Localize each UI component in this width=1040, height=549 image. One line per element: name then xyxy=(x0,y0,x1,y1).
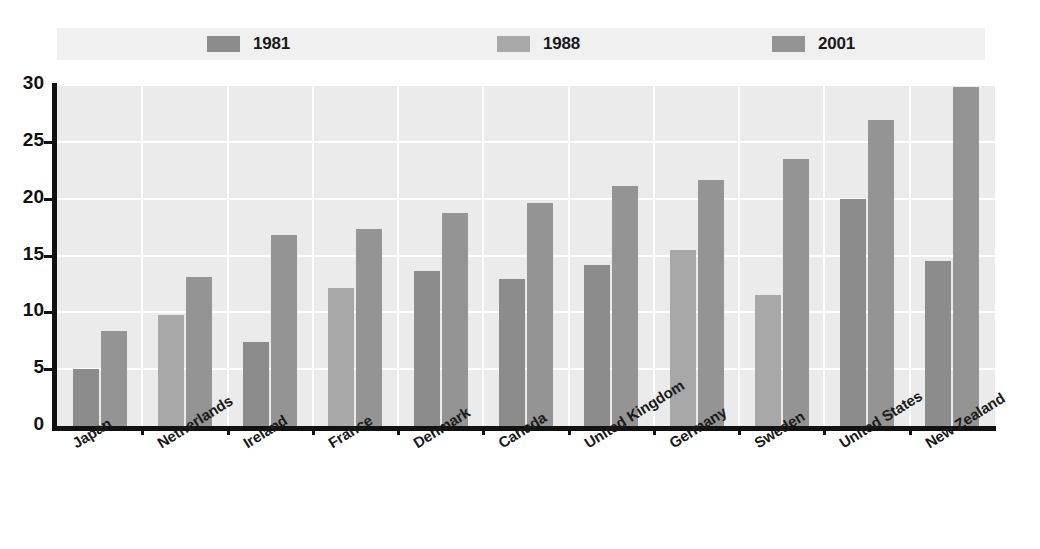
x-axis-tick xyxy=(141,426,144,435)
gridline-vertical xyxy=(738,85,740,426)
x-axis-tick xyxy=(823,426,826,435)
bar-new-zealand-2001 xyxy=(953,87,979,426)
y-axis-tick-label: 5 xyxy=(6,357,44,376)
bar-france-2001 xyxy=(356,229,382,426)
bar-france-1988 xyxy=(328,288,354,426)
gridline-horizontal xyxy=(57,84,995,86)
bar-new-zealand-1981 xyxy=(925,261,951,426)
legend-entry-1988[interactable]: 1988 xyxy=(497,28,580,60)
gridline-horizontal xyxy=(57,141,995,143)
bar-sweden-2001 xyxy=(783,159,809,426)
bar-united-kingdom-2001 xyxy=(612,186,638,426)
gridline-vertical xyxy=(568,85,570,426)
bar-germany-1988 xyxy=(670,250,696,426)
gridline-vertical xyxy=(482,85,484,426)
y-axis-tick-label: 0 xyxy=(6,414,44,433)
bar-netherlands-1988 xyxy=(158,315,184,426)
bar-ireland-2001 xyxy=(271,235,297,426)
legend-entry-2001[interactable]: 2001 xyxy=(772,28,855,60)
legend-entry-1981[interactable]: 1981 xyxy=(207,28,290,60)
bar-united-states-1981 xyxy=(840,199,866,426)
x-axis-tick xyxy=(568,426,571,435)
x-axis-tick xyxy=(482,426,485,435)
chart-legend: 1981 1988 2001 xyxy=(57,28,985,60)
gridline-vertical xyxy=(653,85,655,426)
legend-swatch-1981 xyxy=(207,36,240,52)
bar-united-kingdom-1981 xyxy=(584,265,610,426)
gridline-vertical xyxy=(823,85,825,426)
bar-denmark-1981 xyxy=(414,271,440,426)
legend-label-1988: 1988 xyxy=(543,34,580,54)
x-axis-tick xyxy=(312,426,315,435)
legend-swatch-2001 xyxy=(772,36,805,52)
y-axis-tick-label: 10 xyxy=(6,300,44,319)
gridline-vertical xyxy=(312,85,314,426)
bar-japan-1981 xyxy=(73,369,99,426)
y-axis-tick-label: 15 xyxy=(6,244,44,263)
gridline-vertical xyxy=(909,85,911,426)
bar-united-states-2001 xyxy=(868,120,894,426)
x-axis-tick xyxy=(227,426,230,435)
legend-label-1981: 1981 xyxy=(253,34,290,54)
legend-label-2001: 2001 xyxy=(818,34,855,54)
bar-canada-1981 xyxy=(499,279,525,426)
x-axis-tick xyxy=(738,426,741,435)
legend-swatch-1988 xyxy=(497,36,530,52)
plot-area xyxy=(57,85,995,426)
chart-page: 1981 1988 2001 051015202530 JapanNetherl… xyxy=(0,0,1040,549)
gridline-vertical xyxy=(227,85,229,426)
gridline-vertical xyxy=(141,85,143,426)
bar-canada-2001 xyxy=(527,203,553,426)
bar-ireland-1981 xyxy=(243,342,269,426)
gridline-vertical xyxy=(397,85,399,426)
bar-sweden-1988 xyxy=(755,295,781,426)
bar-denmark-2001 xyxy=(442,213,468,426)
y-axis-tick-label: 25 xyxy=(6,130,44,149)
bar-germany-2001 xyxy=(698,180,724,426)
x-axis-tick xyxy=(909,426,912,435)
y-axis-tick-label: 20 xyxy=(6,187,44,206)
y-axis-tick-label: 30 xyxy=(6,73,44,92)
bar-japan-2001 xyxy=(101,331,127,426)
x-axis-tick xyxy=(653,426,656,435)
x-axis-tick xyxy=(397,426,400,435)
